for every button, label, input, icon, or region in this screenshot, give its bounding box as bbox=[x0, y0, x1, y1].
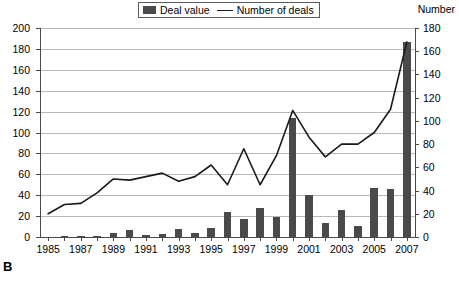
y-tick-right bbox=[415, 74, 419, 75]
x-tick bbox=[81, 237, 82, 241]
x-tick bbox=[407, 237, 408, 241]
x-tick-label: 2003 bbox=[330, 243, 353, 255]
x-tick bbox=[276, 237, 277, 241]
x-tick bbox=[97, 237, 98, 241]
y-tick-label-left: 40 bbox=[0, 190, 30, 201]
panel-label: B bbox=[3, 260, 12, 274]
y-tick-left bbox=[36, 237, 40, 238]
y-tick-right bbox=[415, 214, 419, 215]
y-tick-label-right: 40 bbox=[423, 185, 453, 196]
y-tick-label-right: 80 bbox=[423, 139, 453, 150]
y-tick-label-right: 20 bbox=[423, 208, 453, 219]
y-tick-label-right: 140 bbox=[423, 69, 453, 80]
x-tick bbox=[374, 237, 375, 241]
x-tick-label: 2005 bbox=[363, 243, 386, 255]
y-tick-label-left: 180 bbox=[0, 43, 30, 54]
y-tick-label-left: 200 bbox=[0, 23, 30, 34]
x-tick bbox=[64, 237, 65, 241]
y-tick-left bbox=[36, 153, 40, 154]
line-series-number-of-deals bbox=[40, 28, 415, 237]
x-tick-label: 1999 bbox=[265, 243, 288, 255]
x-tick-label: 1989 bbox=[102, 243, 125, 255]
x-tick bbox=[391, 237, 392, 241]
x-tick-label: 1993 bbox=[167, 243, 190, 255]
x-tick bbox=[309, 237, 310, 241]
y-axis-right bbox=[415, 28, 416, 237]
y-tick-label-right: 100 bbox=[423, 115, 453, 126]
legend-item-deal-value: Deal value bbox=[143, 4, 210, 16]
y-tick-right bbox=[415, 121, 419, 122]
x-tick bbox=[244, 237, 245, 241]
chart-figure: Deal value Number of deals Number 020406… bbox=[0, 0, 459, 281]
x-tick bbox=[146, 237, 147, 241]
x-tick bbox=[113, 237, 114, 241]
y-tick-label-right: 160 bbox=[423, 46, 453, 57]
y-tick-label-right: 0 bbox=[423, 232, 453, 243]
y-tick-label-right: 60 bbox=[423, 162, 453, 173]
legend-label-deal-value: Deal value bbox=[160, 4, 210, 16]
x-tick-label: 2001 bbox=[297, 243, 320, 255]
x-tick-label: 1987 bbox=[69, 243, 92, 255]
y-tick-label-left: 120 bbox=[0, 106, 30, 117]
x-tick-label: 1991 bbox=[134, 243, 157, 255]
y-tick-label-left: 80 bbox=[0, 148, 30, 159]
x-tick bbox=[195, 237, 196, 241]
y-tick-label-left: 0 bbox=[0, 232, 30, 243]
x-tick-label: 1997 bbox=[232, 243, 255, 255]
line-swatch-icon bbox=[217, 10, 233, 11]
legend-item-number-of-deals: Number of deals bbox=[217, 4, 314, 16]
y-tick-left bbox=[36, 133, 40, 134]
y-tick-left bbox=[36, 49, 40, 50]
y-tick-label-left: 140 bbox=[0, 85, 30, 96]
y-tick-label-right: 180 bbox=[423, 23, 453, 34]
x-tick bbox=[162, 237, 163, 241]
y-tick-left bbox=[36, 174, 40, 175]
x-tick bbox=[211, 237, 212, 241]
y-tick-right bbox=[415, 51, 419, 52]
x-tick bbox=[179, 237, 180, 241]
y-tick-right bbox=[415, 144, 419, 145]
x-tick bbox=[358, 237, 359, 241]
y-tick-right bbox=[415, 167, 419, 168]
y-tick-left bbox=[36, 112, 40, 113]
y-tick-label-right: 120 bbox=[423, 92, 453, 103]
x-tick bbox=[293, 237, 294, 241]
legend-label-number-of-deals: Number of deals bbox=[237, 4, 314, 16]
y-tick-right bbox=[415, 98, 419, 99]
x-tick bbox=[325, 237, 326, 241]
y-tick-label-left: 20 bbox=[0, 211, 30, 222]
x-tick bbox=[48, 237, 49, 241]
y-tick-right bbox=[415, 237, 419, 238]
line-path bbox=[48, 42, 407, 214]
x-tick-label: 2007 bbox=[395, 243, 418, 255]
y-tick-left bbox=[36, 216, 40, 217]
x-tick bbox=[228, 237, 229, 241]
x-tick bbox=[130, 237, 131, 241]
y-axis-left bbox=[40, 28, 41, 237]
y-tick-left bbox=[36, 28, 40, 29]
y-tick-right bbox=[415, 191, 419, 192]
x-tick bbox=[342, 237, 343, 241]
y-tick-left bbox=[36, 195, 40, 196]
y-tick-label-left: 60 bbox=[0, 169, 30, 180]
x-tick-label: 1995 bbox=[200, 243, 223, 255]
bar-swatch-icon bbox=[143, 6, 156, 14]
right-axis-caption: Number bbox=[418, 3, 455, 15]
y-tick-label-left: 160 bbox=[0, 64, 30, 75]
y-tick-label-left: 100 bbox=[0, 127, 30, 138]
y-tick-right bbox=[415, 28, 419, 29]
x-tick bbox=[260, 237, 261, 241]
x-tick-label: 1985 bbox=[36, 243, 59, 255]
chart-legend: Deal value Number of deals bbox=[138, 2, 320, 18]
y-tick-left bbox=[36, 70, 40, 71]
y-tick-left bbox=[36, 91, 40, 92]
